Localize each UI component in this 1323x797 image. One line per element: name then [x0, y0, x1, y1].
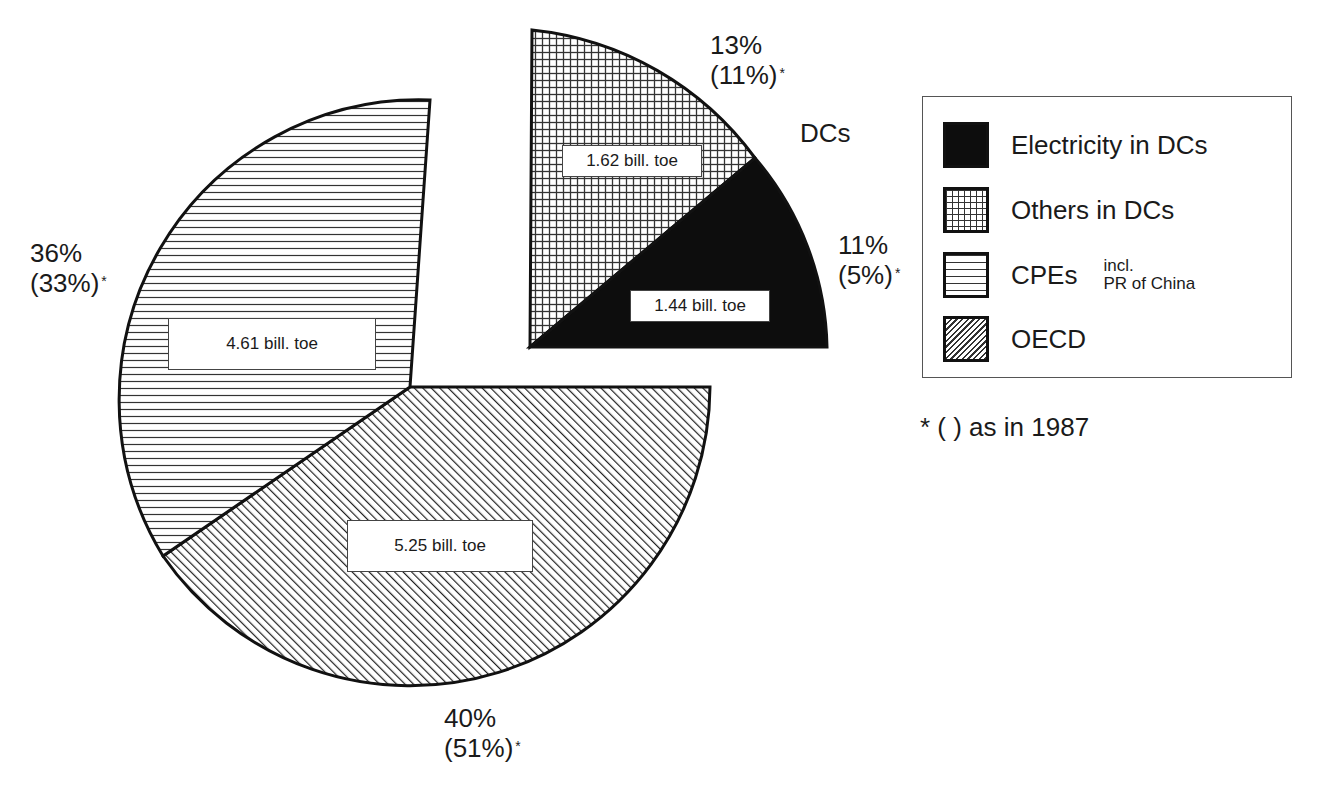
- pct-label-electricity: 11% (5%)*: [838, 230, 900, 290]
- pct-cpes: 36%: [30, 238, 107, 268]
- legend-label: OECD: [1011, 324, 1086, 355]
- legend-sublabel: incl.PR of China: [1103, 257, 1195, 293]
- legend: Electricity in DCs Others in DCs CPEs in…: [922, 96, 1292, 378]
- value-label-others: 1.62 bill. toe: [562, 145, 702, 177]
- swatch-solid-black-icon: [943, 122, 989, 168]
- pct-others-1987: (11%): [710, 60, 777, 90]
- legend-label: CPEs: [1011, 260, 1077, 291]
- legend-sub-incl: incl.: [1103, 256, 1133, 275]
- pct-label-cpes: 36% (33%)*: [30, 238, 107, 298]
- legend-label: Others in DCs: [1011, 195, 1174, 226]
- legend-label: Electricity in DCs: [1011, 130, 1207, 161]
- group-label-dcs: DCs: [800, 118, 851, 148]
- swatch-grid-icon: [943, 187, 989, 233]
- swatch-diagonal-hatch-icon: [943, 316, 989, 362]
- value-label-electricity: 1.44 bill. toe: [630, 290, 770, 322]
- legend-item-oecd: OECD: [943, 315, 1086, 363]
- footnote-star: *: [101, 273, 106, 289]
- pct-electricity: 11%: [838, 230, 900, 260]
- pct-oecd: 40%: [444, 703, 521, 733]
- legend-sub-china: PR of China: [1103, 274, 1195, 293]
- footnote-star: *: [895, 265, 900, 281]
- value-label-oecd: 5.25 bill. toe: [347, 520, 533, 572]
- pct-cpes-1987: (33%): [30, 268, 99, 298]
- legend-item-electricity: Electricity in DCs: [943, 121, 1207, 169]
- value-label-cpes: 4.61 bill. toe: [168, 318, 376, 370]
- footnote-star: *: [515, 738, 520, 754]
- pct-electricity-1987: (5%): [838, 260, 893, 290]
- footnote: * ( ) as in 1987: [920, 412, 1089, 443]
- pct-label-others: 13% (11%)*: [710, 30, 785, 90]
- pct-others: 13%: [710, 30, 785, 60]
- legend-item-cpes: CPEs incl.PR of China: [943, 251, 1195, 299]
- legend-item-others: Others in DCs: [943, 186, 1174, 234]
- footnote-star: *: [779, 65, 784, 81]
- pct-oecd-1987: (51%): [444, 733, 513, 763]
- swatch-horizontal-lines-icon: [943, 252, 989, 298]
- pct-label-oecd: 40% (51%)*: [444, 703, 521, 763]
